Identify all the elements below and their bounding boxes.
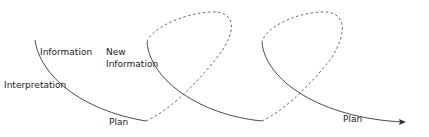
label-new-information-line1: New [106,47,126,57]
label-new-information-line2: Information [106,59,158,69]
iterative-planning-loop-diagram [0,0,429,137]
dashed-loop-1 [146,12,231,121]
label-plan-1: Plan [109,117,128,127]
label-interpretation: Interpretation [4,80,66,90]
label-plan-2: Plan [343,114,362,124]
solid-curve-final [262,42,403,122]
label-information: Information [40,47,92,57]
solid-curve-second [147,42,262,121]
arrowhead-icon [399,119,406,125]
dashed-loop-2 [262,12,342,121]
